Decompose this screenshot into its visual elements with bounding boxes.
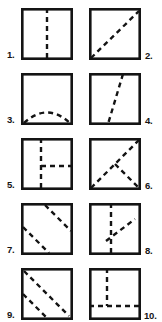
figure-1-square <box>21 8 73 60</box>
figure-6-number-label: 6. <box>145 181 153 191</box>
figure-10-square <box>89 268 141 320</box>
figure-8-outline <box>90 204 139 253</box>
figure-9-fold-line-2 <box>23 294 47 318</box>
figure-4-square <box>89 73 141 125</box>
figure-7-fold-line-2 <box>23 227 49 253</box>
figure-10-outline <box>90 269 139 318</box>
figure-9-square <box>21 268 73 320</box>
figure-5 <box>21 138 73 190</box>
figure-9 <box>21 268 73 320</box>
figure-6-fold-line-2 <box>115 164 139 188</box>
figure-10-number-label: 10. <box>144 311 157 321</box>
figure-1-outline <box>22 9 71 58</box>
figure-7-outline <box>22 204 71 253</box>
figure-2-fold-line-1 <box>91 11 139 58</box>
figure-8 <box>89 203 141 255</box>
figure-8-number-label: 8. <box>145 246 153 256</box>
figure-9-fold-line-1 <box>24 271 69 316</box>
figure-4-outline <box>90 74 139 123</box>
figure-5-outline <box>22 139 71 188</box>
figure-7-fold-line-1 <box>45 205 71 231</box>
figure-8-square <box>89 203 141 255</box>
figure-2 <box>89 8 141 60</box>
figure-10 <box>89 268 141 320</box>
figure-1 <box>21 8 73 60</box>
figure-5-number-label: 5. <box>7 180 15 190</box>
figure-4-fold-line-1 <box>108 74 123 124</box>
figure-3-square <box>21 73 73 125</box>
figure-3-number-label: 3. <box>7 115 15 125</box>
figure-2-square <box>89 8 141 60</box>
worksheet-sheet: 1.2.3.4.5.6.7.8.9.10. <box>0 0 162 322</box>
figure-7 <box>21 203 73 255</box>
figure-4-number-label: 4. <box>145 116 153 126</box>
figure-9-number-label: 9. <box>7 310 15 320</box>
figure-3 <box>21 73 73 125</box>
figure-7-square <box>21 203 73 255</box>
figure-1-number-label: 1. <box>7 50 15 60</box>
figure-3-fold-line-1 <box>24 113 70 124</box>
figure-2-number-label: 2. <box>145 51 153 61</box>
figure-5-square <box>21 138 73 190</box>
figure-4 <box>89 73 141 125</box>
figure-3-outline <box>22 74 71 123</box>
figure-7-number-label: 7. <box>7 245 15 255</box>
figure-6-square <box>89 138 141 190</box>
figure-6 <box>89 138 141 190</box>
